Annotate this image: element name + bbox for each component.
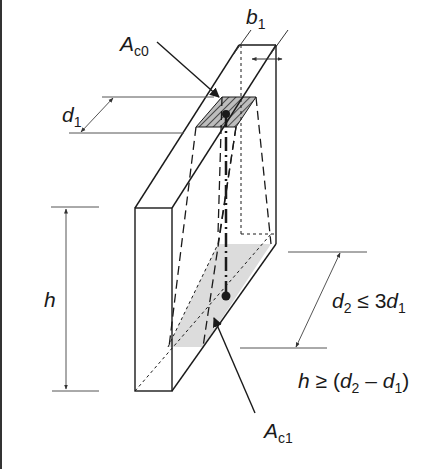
label-ac1: Ac1 bbox=[264, 420, 293, 441]
load-point-top bbox=[222, 110, 230, 118]
d1-dimension bbox=[69, 97, 214, 133]
slab-diagram bbox=[0, 0, 439, 469]
label-d2-condition: d2 ≤ 3d1 bbox=[332, 290, 406, 311]
label-h: h bbox=[44, 289, 56, 310]
h-dimension bbox=[51, 207, 99, 391]
label-b1: b1 bbox=[246, 6, 265, 27]
label-d1: d1 bbox=[62, 104, 81, 125]
label-h-condition: h ≥ (d2 – d1) bbox=[298, 370, 409, 391]
ac0-leader bbox=[157, 42, 219, 97]
ac1-leader bbox=[214, 318, 255, 413]
figure-canvas: Ac0 b1 d1 h d2 ≤ 3d1 h ≥ (d2 – d1) Ac1 bbox=[0, 0, 439, 469]
load-point-bottom bbox=[222, 292, 231, 301]
label-ac0: Ac0 bbox=[120, 33, 149, 54]
